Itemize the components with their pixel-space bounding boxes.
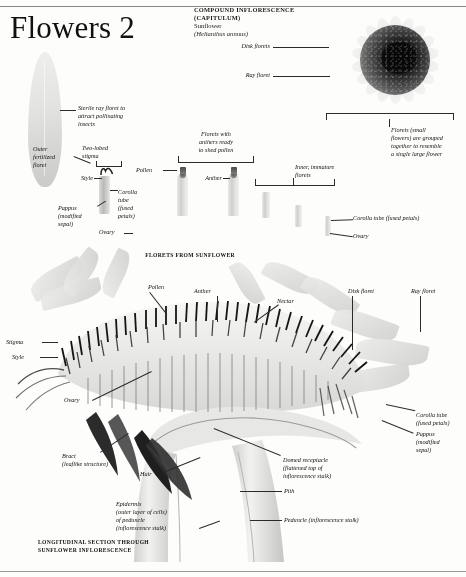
header-line-1: COMPOUND INFLORESCENCE xyxy=(194,6,324,14)
floret-specimen-2 xyxy=(177,176,188,216)
leader-section-ray-floret xyxy=(420,296,421,332)
disc-core xyxy=(381,42,417,74)
label-corolla-tube-right: Corolla tube (fused petals) xyxy=(353,214,461,222)
leader-ray-floret xyxy=(273,76,330,77)
label-pappus: Pappus (modified sepal) xyxy=(58,204,98,228)
label-section-pappus: Pappus (modified sepal) xyxy=(416,430,458,454)
label-bracket-note: Florets (small flowers) are grouped toge… xyxy=(391,126,465,158)
page-title: Flowers 2 xyxy=(10,10,135,46)
label-section-corolla-tube: Corolla tube (fused petals) xyxy=(416,411,466,427)
two-lobed-stigma-glyph xyxy=(100,166,110,175)
leader-style xyxy=(94,178,102,179)
leader-section-disk-floret xyxy=(352,296,353,350)
leader-sterile-ray xyxy=(60,110,76,111)
header-block: COMPOUND INFLORESCENCE (CAPITULUM) Sunfl… xyxy=(194,6,324,38)
label-ovary-right: Ovary xyxy=(353,232,393,240)
immature-floret-1 xyxy=(262,192,270,218)
leader-corolla-tube xyxy=(110,190,118,191)
leader-section-pith xyxy=(240,491,282,492)
label-anther: Anther xyxy=(190,174,222,182)
leader-pollen xyxy=(163,170,177,171)
label-section-style: Style xyxy=(12,353,42,361)
bracket-inner-florets xyxy=(255,179,335,186)
label-section-anther: Anther xyxy=(194,287,224,295)
header-latin-name: (Helianthus annuus) xyxy=(194,30,324,38)
label-style: Style xyxy=(62,174,93,182)
leader-ovary-right xyxy=(330,233,353,237)
leader-section-stigma xyxy=(42,342,58,343)
label-pollen: Pollen xyxy=(136,166,164,174)
header-common-name: Sunflower xyxy=(194,22,324,30)
label-section-pith: Pith xyxy=(284,487,308,495)
floret-specimen-3 xyxy=(228,176,239,216)
label-outer-fertilized-floret: Outer fertilized floret xyxy=(33,145,77,169)
disc-floret-mass xyxy=(360,25,430,95)
leader-ovary xyxy=(124,233,133,234)
anther-glyph-2 xyxy=(231,167,237,178)
caption-bottom-line-2: SUNFLOWER INFLORESCENCE xyxy=(38,546,149,554)
header-line-2: (CAPITULUM) xyxy=(194,14,324,22)
label-ray-floret: Ray floret xyxy=(213,71,270,79)
leader-section-style xyxy=(40,357,58,358)
label-section-epidermis: Epidermis (outer layer of cells) of pedu… xyxy=(116,500,208,532)
sunflower-head-illustration xyxy=(330,8,460,112)
leader-disk-florets xyxy=(273,47,329,48)
bracket-head-stem xyxy=(389,119,390,127)
label-section-ray-floret: Ray floret xyxy=(411,287,453,295)
label-inner-immature-florets: Inner, immature florets xyxy=(295,163,363,179)
caption-bottom-line-1: LONGITUDINAL SECTION THROUGH xyxy=(38,538,149,546)
floret-specimen-1 xyxy=(99,176,110,214)
label-corolla-tube: Corolla tube (fused petals) xyxy=(118,188,152,220)
caption-longitudinal-section: LONGITUDINAL SECTION THROUGH SUNFLOWER I… xyxy=(38,538,149,555)
label-section-disk-floret: Disk floret xyxy=(348,287,392,295)
anther-glyph xyxy=(180,167,186,178)
bracket-anther-florets xyxy=(178,156,254,163)
label-two-lobed-stigma: Two-lobed stigma xyxy=(82,144,132,160)
label-section-nectar: Nectar xyxy=(277,297,307,305)
bracket-head xyxy=(326,113,454,120)
label-section-pollen: Pollen xyxy=(148,283,178,291)
label-section-bract: Bract (leaflike structure) xyxy=(62,452,136,468)
label-section-stigma: Stigma xyxy=(6,338,42,346)
leader-section-peduncle xyxy=(250,520,282,521)
page-canvas: Flowers 2 COMPOUND INFLORESCENCE (CAPITU… xyxy=(0,0,466,577)
leader-section-anther xyxy=(217,296,218,322)
label-florets-anthers: Florets with anthers ready to shed polle… xyxy=(185,130,247,154)
label-disk-florets: Disk florets xyxy=(208,42,270,50)
leader-corolla-tube-right xyxy=(331,219,353,220)
leader-anther xyxy=(223,178,230,179)
label-section-peduncle: Peduncle (inflorescence stalk) xyxy=(284,516,414,524)
bottom-rule xyxy=(0,571,466,572)
immature-floret-2 xyxy=(295,205,302,227)
label-section-domed-receptacle: Domed receptacle (flattened top of inflo… xyxy=(283,456,363,480)
label-sterile-ray-floret: Sterile ray floret to attract pollinatin… xyxy=(78,104,152,128)
